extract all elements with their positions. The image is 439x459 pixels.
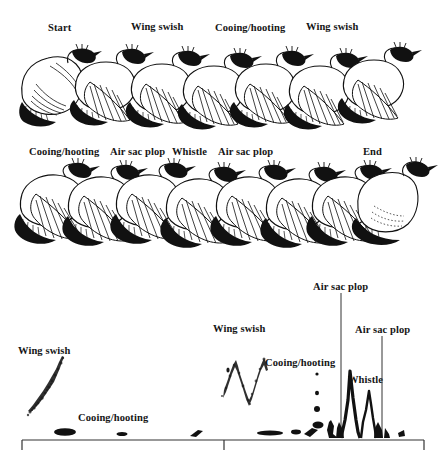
display-sequence-figure: Start Wing swish Cooing/hooting Wing swi… [0,0,439,459]
trace-trailing-click [398,430,405,437]
trace-cooing-harmonics [313,372,324,428]
row2-bird-panel [12,160,430,258]
row2-label-cooing-hooting: Cooing/hooting [29,146,99,157]
coo-blob-4 [257,430,283,435]
spectrogram-plot [0,270,439,459]
row1-bird-panel [16,38,428,130]
row2-label-whistle: Whistle [172,146,207,157]
spectrogram-axis [22,440,424,450]
row1-label-cooing-hooting: Cooing/hooting [215,22,285,33]
row1-label-wing-swish-1: Wing swish [131,21,183,32]
coo-blob-1 [54,428,76,436]
coo-blob-5 [291,430,301,435]
row1-label-start: Start [48,22,71,33]
trace-coo-blobs [54,428,318,437]
coo-blob-6 [304,428,318,437]
trace-wing-swish-1 [27,356,64,416]
coo-blob-2 [117,432,128,436]
trace-wing-swish-2 [221,358,268,407]
row1-label-wing-swish-2: Wing swish [306,21,358,32]
row2-label-air-sac-plop-1: Air sac plop [110,146,165,157]
trace-whistle [341,371,376,438]
coo-blob-3 [190,430,203,437]
row2-label-end: End [363,146,382,157]
row2-label-air-sac-plop-2: Air sac plop [218,146,273,157]
